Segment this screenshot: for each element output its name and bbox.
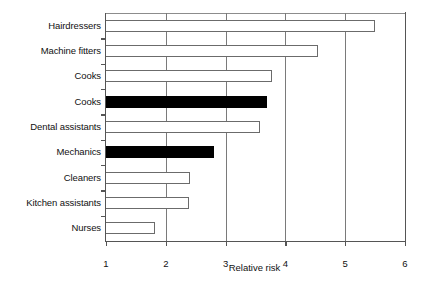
category-label-hairdressers-0: Hairdressers [0, 21, 101, 31]
category-label-cooks-3: Cooks [0, 97, 101, 107]
y-tick-8 [101, 216, 106, 217]
category-label-cooks-2: Cooks [0, 71, 101, 81]
y-tick-5 [101, 140, 106, 141]
bar-cooks-3 [106, 96, 267, 108]
relative-risk-bar-chart: HairdressersMachine fittersCooksCooksDen… [0, 0, 423, 286]
gridline-x-5 [345, 13, 346, 241]
x-tick-2 [166, 241, 167, 246]
bar-cooks-2 [106, 70, 272, 82]
plot-area: 123456 [105, 13, 405, 242]
category-label-kitchen-assistants-7: Kitchen assistants [0, 198, 101, 208]
y-tick-1 [101, 38, 106, 39]
bar-machine-fitters-1 [106, 45, 318, 57]
category-axis-labels: HairdressersMachine fittersCooksCooksDen… [0, 13, 101, 241]
y-tick-2 [101, 64, 106, 65]
y-tick-7 [101, 190, 106, 191]
x-axis-title: Relative risk [105, 262, 404, 273]
y-tick-4 [101, 114, 106, 115]
plot-right-spine [405, 12, 406, 241]
bar-hairdressers-0 [106, 20, 375, 32]
y-tick-3 [101, 89, 106, 90]
x-tick-1 [106, 241, 107, 246]
category-label-mechanics-5: Mechanics [0, 147, 101, 157]
category-label-cleaners-6: Cleaners [0, 173, 101, 183]
x-tick-3 [226, 241, 227, 246]
category-label-dental-assistants-4: Dental assistants [0, 122, 101, 132]
bar-dental-assistants-4 [106, 121, 260, 133]
bar-mechanics-5 [106, 146, 214, 158]
category-label-machine-fitters-1: Machine fitters [0, 46, 101, 56]
x-tick-6 [405, 241, 406, 246]
category-label-nurses-8: Nurses [0, 223, 101, 233]
x-tick-4 [285, 241, 286, 246]
x-tick-5 [345, 241, 346, 246]
y-tick-6 [101, 165, 106, 166]
bar-cleaners-6 [106, 172, 190, 184]
bar-nurses-8 [106, 222, 155, 234]
bar-kitchen-assistants-7 [106, 197, 189, 209]
plot-top-spine [106, 13, 405, 14]
